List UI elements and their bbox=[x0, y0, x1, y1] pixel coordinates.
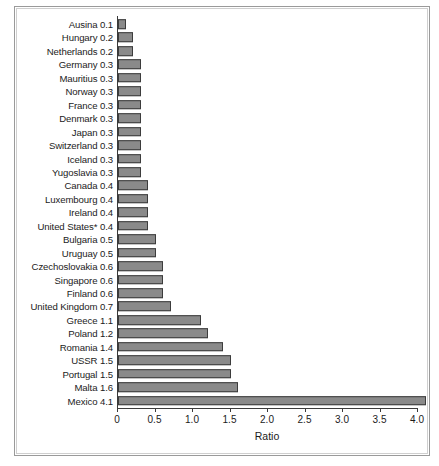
bar bbox=[118, 167, 141, 177]
bar-row-label: Yugoslavia 0.3 bbox=[52, 166, 113, 177]
bar bbox=[118, 181, 148, 191]
bar bbox=[118, 234, 156, 244]
bar bbox=[118, 342, 223, 352]
bar-row: Mexico 4.1 bbox=[0, 394, 439, 407]
bar-row: Hungary 0.2 bbox=[0, 31, 439, 44]
bar bbox=[118, 46, 133, 56]
bar-row: Poland 1.2 bbox=[0, 327, 439, 340]
bar bbox=[118, 73, 141, 83]
bar bbox=[118, 261, 163, 271]
bar bbox=[118, 382, 238, 392]
bar-row-label: Ireland 0.4 bbox=[69, 207, 113, 218]
bar-row: Germany 0.3 bbox=[0, 58, 439, 71]
bar-row: Romania 1.4 bbox=[0, 340, 439, 353]
bar-row-label: Iceland 0.3 bbox=[67, 153, 113, 164]
bar-row-label: Mexico 4.1 bbox=[68, 395, 113, 406]
bar-row: Luxembourg 0.4 bbox=[0, 192, 439, 205]
bar bbox=[118, 396, 426, 406]
bar-row-label: USSR 1.5 bbox=[71, 355, 113, 366]
bar-row: USSR 1.5 bbox=[0, 354, 439, 367]
x-axis-tick bbox=[267, 408, 268, 412]
bar-row: Finland 0.6 bbox=[0, 286, 439, 299]
bar-row-label: Poland 1.2 bbox=[68, 328, 113, 339]
bar bbox=[118, 315, 201, 325]
x-axis-tick-label: 3.0 bbox=[335, 414, 349, 425]
bar-row-label: Germany 0.3 bbox=[59, 59, 113, 70]
bar bbox=[118, 302, 171, 312]
bar-row: Bulgaria 0.5 bbox=[0, 233, 439, 246]
x-axis-tick bbox=[230, 408, 231, 412]
x-axis-tick bbox=[305, 408, 306, 412]
x-axis-tick bbox=[380, 408, 381, 412]
bar-row: Ausina 0.1 bbox=[0, 17, 439, 30]
bar-row: United States* 0.4 bbox=[0, 219, 439, 232]
bar bbox=[118, 100, 141, 110]
bar bbox=[118, 194, 148, 204]
bar-row-label: Greece 1.1 bbox=[67, 314, 113, 325]
bar bbox=[118, 248, 156, 258]
bar-row-label: Czechoslovakia 0.6 bbox=[32, 261, 113, 272]
bar bbox=[118, 60, 141, 70]
bar-row: Iceland 0.3 bbox=[0, 152, 439, 165]
x-axis-tick-label: 1.5 bbox=[223, 414, 237, 425]
chart-figure: Ausina 0.1Hungary 0.2Netherlands 0.2Germ… bbox=[0, 0, 439, 466]
bar bbox=[118, 369, 231, 379]
bar-row: Ireland 0.4 bbox=[0, 206, 439, 219]
bar-row: France 0.3 bbox=[0, 98, 439, 111]
bar-row: Singapore 0.6 bbox=[0, 273, 439, 286]
bar-row-label: Uruguay 0.5 bbox=[62, 247, 113, 258]
bar-row: Mauritius 0.3 bbox=[0, 71, 439, 84]
bar-row: Switzerland 0.3 bbox=[0, 138, 439, 151]
x-axis-tick bbox=[155, 408, 156, 412]
x-axis-tick-label: 3.5 bbox=[373, 414, 387, 425]
bar bbox=[118, 275, 163, 285]
bar-row-label: Ausina 0.1 bbox=[69, 19, 113, 30]
bar-row: Uruguay 0.5 bbox=[0, 246, 439, 259]
bar bbox=[118, 113, 141, 123]
bar bbox=[118, 329, 208, 339]
bar-row-label: Netherlands 0.2 bbox=[47, 45, 113, 56]
bar-row-label: Denmark 0.3 bbox=[59, 113, 113, 124]
bar-row-label: Mauritius 0.3 bbox=[59, 72, 113, 83]
bar-row-label: Canada 0.4 bbox=[64, 180, 113, 191]
bar-row-label: Luxembourg 0.4 bbox=[45, 193, 113, 204]
bar-row-label: Romania 1.4 bbox=[60, 341, 113, 352]
bar bbox=[118, 208, 148, 218]
bar-row-label: Norway 0.3 bbox=[65, 86, 113, 97]
x-axis-tick bbox=[192, 408, 193, 412]
bar bbox=[118, 127, 141, 137]
bar bbox=[118, 19, 126, 29]
x-axis-tick-label: 4.0 bbox=[410, 414, 424, 425]
bar-row: United Kingdom 0.7 bbox=[0, 300, 439, 313]
x-axis-tick bbox=[117, 408, 118, 412]
x-axis-tick-label: 2.5 bbox=[298, 414, 312, 425]
bar bbox=[118, 140, 141, 150]
bar bbox=[118, 86, 141, 96]
bar-row: Portugal 1.5 bbox=[0, 367, 439, 380]
bar bbox=[118, 154, 141, 164]
bar-row: Malta 1.6 bbox=[0, 380, 439, 393]
bar bbox=[118, 221, 148, 231]
x-axis-tick-label: 0.5 bbox=[148, 414, 162, 425]
bar-row-label: Japan 0.3 bbox=[72, 126, 113, 137]
bar-row-label: Singapore 0.6 bbox=[55, 274, 113, 285]
bar-row: Netherlands 0.2 bbox=[0, 44, 439, 57]
bar-row-label: Bulgaria 0.5 bbox=[63, 234, 113, 245]
x-axis-tick-label: 0 bbox=[114, 414, 120, 425]
bar-row-label: Malta 1.6 bbox=[74, 382, 113, 393]
plot-area: Ausina 0.1Hungary 0.2Netherlands 0.2Germ… bbox=[0, 0, 439, 466]
bar-row-label: Hungary 0.2 bbox=[62, 32, 113, 43]
bar-row-label: United Kingdom 0.7 bbox=[31, 301, 113, 312]
bar-row-label: Portugal 1.5 bbox=[62, 368, 113, 379]
bar bbox=[118, 355, 231, 365]
x-axis-tick-label: 2.0 bbox=[260, 414, 274, 425]
bar-row: Norway 0.3 bbox=[0, 85, 439, 98]
bar-row-label: France 0.3 bbox=[68, 99, 113, 110]
bar bbox=[118, 288, 163, 298]
bar-row: Greece 1.1 bbox=[0, 313, 439, 326]
bar-row: Yugoslavia 0.3 bbox=[0, 165, 439, 178]
bar-row: Denmark 0.3 bbox=[0, 111, 439, 124]
bar-row-label: Switzerland 0.3 bbox=[49, 140, 113, 151]
bar-row-label: Finland 0.6 bbox=[67, 288, 113, 299]
bar-row: Czechoslovakia 0.6 bbox=[0, 259, 439, 272]
